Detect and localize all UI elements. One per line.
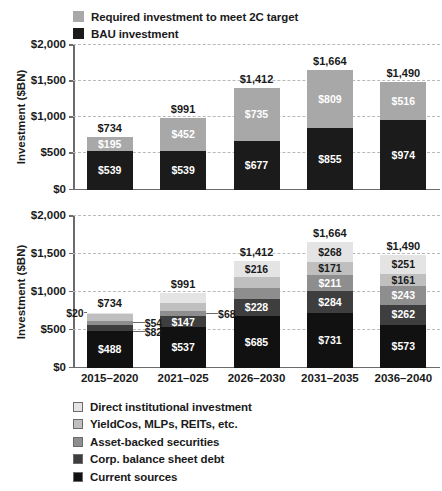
legend-label: YieldCos, MLPs, REITs, etc. <box>90 418 237 430</box>
callout-label-c82: $82 <box>145 326 163 338</box>
bar: $677$735 <box>234 88 280 190</box>
bar-segment: $537 <box>160 327 206 368</box>
bar-segment: $685 <box>234 316 280 368</box>
bar: $539$452 <box>160 118 206 190</box>
legend-swatch <box>73 437 83 447</box>
bottom-chart-y-axis-title: Investment ($BN) <box>15 244 27 339</box>
bar: $731$284$211$171$268 <box>307 242 353 368</box>
bar-segment: $573 <box>380 325 426 368</box>
y-axis-tick-label: $1,000 <box>31 285 66 297</box>
legend-item: Direct institutional investment <box>73 398 252 416</box>
bar-segment-label: $809 <box>318 94 341 105</box>
bar-segment <box>87 313 133 315</box>
legend-item: Corp. balance sheet debt <box>73 451 252 469</box>
legend-label: Corp. balance sheet debt <box>90 453 224 465</box>
legend-item: BAU investment <box>73 25 298 42</box>
legend-swatch <box>73 454 83 464</box>
x-axis-tick-labels: 2015–20202021–0252026–20302031–20352036–… <box>73 372 440 388</box>
bar-segment-label: $539 <box>171 165 194 176</box>
x-axis-tick-label-1: 2021–025 <box>158 372 209 384</box>
bar-segment: $147 <box>160 316 206 327</box>
x-axis-tick-label-4: 2036–2040 <box>375 372 433 384</box>
bar-segment <box>160 303 206 311</box>
bar-segment: $216 <box>234 261 280 277</box>
bar-segment: $228 <box>234 299 280 316</box>
bar-segment-label: $211 <box>319 278 342 289</box>
y-axis-tick-label: $1,500 <box>31 74 66 86</box>
callout-leader-c54 <box>133 322 145 323</box>
bar-segment-label: $268 <box>318 247 341 258</box>
callout-leader-c68 <box>206 313 218 314</box>
y-axis-tick-label: $2,000 <box>31 209 66 221</box>
y-axis-tick-label: $0 <box>53 183 66 195</box>
bar: $685$228$216 <box>234 261 280 368</box>
callout-leader-c20 <box>84 312 87 313</box>
bar: $974$516 <box>380 82 426 190</box>
bar-segment <box>234 277 280 288</box>
legend-label: Current sources <box>90 471 177 483</box>
bar-segment-label: $228 <box>245 302 268 313</box>
top-chart-y-axis-title: Investment ($BN) <box>15 70 27 165</box>
x-axis-tick-label-3: 2031–2035 <box>301 372 359 384</box>
bar-total-label: $1,412 <box>240 246 274 258</box>
callout-leader-c82 <box>133 331 145 332</box>
legend-swatch <box>73 419 83 429</box>
y-axis-tick-label: $2,000 <box>31 38 66 50</box>
bar: $573$262$243$161$251 <box>380 255 426 368</box>
bar-segment <box>87 325 133 331</box>
x-axis-tick-label-0: 2015–2020 <box>81 372 139 384</box>
bar: $855$809 <box>307 70 353 190</box>
bar-segment: $262 <box>380 305 426 325</box>
bar: $488 <box>87 312 133 368</box>
bar-total-label: $991 <box>171 278 195 290</box>
bottom-chart-panel: Investment ($BN) $0$500$1,000$1,500$2,00… <box>0 215 442 368</box>
bar-segment: $974 <box>380 120 426 190</box>
bar-group: $539$195$734$539$452$991$677$735$1,412$8… <box>73 44 440 190</box>
bar-segment: $243 <box>380 286 426 304</box>
legend-label: Required investment to meet 2C target <box>91 11 298 23</box>
bar-segment: $488 <box>87 331 133 368</box>
bar-segment: $452 <box>160 118 206 151</box>
bar-segment-label: $685 <box>245 337 268 348</box>
bar-segment-label: $735 <box>245 109 268 120</box>
bar-segment-label: $147 <box>171 317 194 328</box>
bar-segment-label: $516 <box>392 96 415 107</box>
bar-segment: $284 <box>307 291 353 313</box>
bar: $537$147 <box>160 293 206 368</box>
bar-segment-label: $251 <box>392 259 415 270</box>
bottom-chart-legend: Direct institutional investmentYieldCos,… <box>73 398 252 486</box>
bar-total-label: $1,490 <box>386 240 420 252</box>
bar-segment: $268 <box>307 242 353 262</box>
legend-label: Direct institutional investment <box>90 401 252 413</box>
bar-total-label: $1,664 <box>313 227 347 239</box>
bar-segment: $539 <box>87 151 133 190</box>
bar-segment-label: $539 <box>98 165 121 176</box>
bar-segment-label: $195 <box>98 139 121 150</box>
bar-segment-label: $216 <box>245 264 268 275</box>
bar-segment: $735 <box>234 88 280 141</box>
bar-segment: $161 <box>380 274 426 286</box>
x-axis-tick-label-2: 2026–2030 <box>228 372 286 384</box>
bar-segment-label: $262 <box>392 309 415 320</box>
legend-item: Required investment to meet 2C target <box>73 8 298 25</box>
bar-total-label: $734 <box>97 297 121 309</box>
bar-segment-label: $284 <box>318 297 341 308</box>
bar-segment-label: $677 <box>245 160 268 171</box>
bar-segment: $171 <box>307 262 353 275</box>
bar-segment <box>234 288 280 299</box>
bar-segment: $195 <box>87 137 133 151</box>
bar-segment <box>87 314 133 321</box>
y-axis-tick-label: $500 <box>40 146 66 158</box>
bar: $539$195 <box>87 137 133 190</box>
legend-label: Asset-backed securities <box>90 436 219 448</box>
callout-label-c20: $20 <box>66 307 84 319</box>
callout-label-c68: $68 <box>218 308 236 320</box>
top-chart-legend: Required investment to meet 2C targetBAU… <box>73 8 298 42</box>
bar-segment-label: $537 <box>171 342 194 353</box>
bar-segment: $251 <box>380 255 426 274</box>
bar-segment: $809 <box>307 70 353 128</box>
figure-root: Required investment to meet 2C targetBAU… <box>0 0 442 491</box>
legend-label: BAU investment <box>91 28 178 40</box>
legend-swatch <box>73 472 83 482</box>
bar-total-label: $734 <box>97 122 121 134</box>
